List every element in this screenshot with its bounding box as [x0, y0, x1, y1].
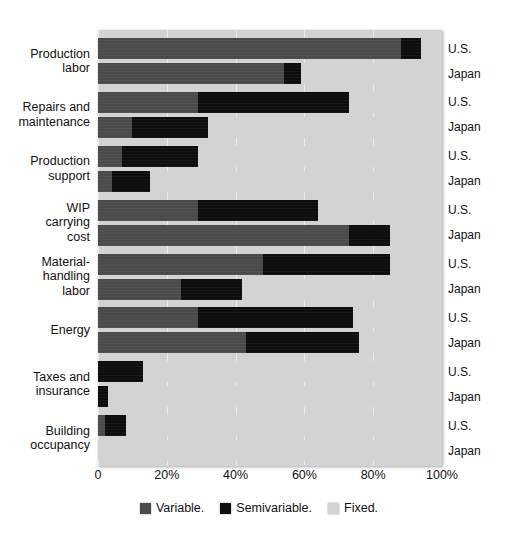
country-label-us: U.S.	[448, 149, 471, 163]
bar-segment-variable	[98, 63, 284, 84]
bar-row[interactable]	[98, 200, 442, 221]
x-tick-label: 80%	[361, 468, 386, 482]
bar-row[interactable]	[98, 361, 442, 382]
bar-segment-semivariable	[122, 146, 198, 167]
category-label-line: cost	[0, 230, 90, 245]
bar-segment-semivariable	[198, 307, 353, 328]
bar-row[interactable]	[98, 415, 442, 436]
bar-segment-semivariable	[198, 200, 318, 221]
bar-row[interactable]	[98, 279, 442, 300]
bar-row[interactable]	[98, 225, 442, 246]
bar-segment-variable	[98, 200, 198, 221]
country-label-japan: Japan	[448, 228, 481, 242]
bar-segment-variable	[98, 279, 181, 300]
legend-item[interactable]: Fixed.	[328, 501, 378, 515]
x-tick-label: 60%	[292, 468, 317, 482]
chart-legend: Variable.Semivariable.Fixed.	[0, 496, 518, 520]
bar-segment-variable	[98, 171, 112, 192]
bar-segment-semivariable	[181, 279, 243, 300]
legend-label: Fixed.	[344, 501, 378, 515]
x-tick-label: 100%	[426, 468, 458, 482]
legend-item[interactable]: Variable.	[140, 501, 204, 515]
country-label-japan: Japan	[448, 67, 481, 81]
bar-row[interactable]	[98, 254, 442, 275]
category-label: Material-handlinglabor	[0, 255, 90, 299]
bar-segment-variable	[98, 415, 105, 436]
bar-segment-semivariable	[284, 63, 301, 84]
category-label-line: handling	[0, 269, 90, 284]
category-label-line: Repairs and	[0, 100, 90, 115]
category-label-line: carrying	[0, 215, 90, 230]
country-labels: U.S.JapanU.S.JapanU.S.JapanU.S.JapanU.S.…	[448, 30, 518, 466]
bar-segment-semivariable	[246, 332, 360, 353]
bar-group	[98, 361, 442, 407]
bar-segment-fixed	[126, 415, 442, 436]
bar-row[interactable]	[98, 171, 442, 192]
bar-row[interactable]	[98, 38, 442, 59]
category-label-line: labor	[0, 284, 90, 299]
bar-segment-semivariable	[263, 254, 390, 275]
bar-segment-semivariable	[132, 117, 208, 138]
bar-segment-semivariable	[98, 386, 108, 407]
category-label: WIPcarryingcost	[0, 201, 90, 245]
category-label-line: insurance	[0, 384, 90, 399]
bar-segment-semivariable	[349, 225, 390, 246]
category-axis-labels: ProductionlaborRepairs andmaintenancePro…	[0, 30, 94, 466]
category-label-line: Production	[0, 154, 90, 169]
category-label-line: WIP	[0, 201, 90, 216]
bar-segment-variable	[98, 38, 401, 59]
bar-group	[98, 38, 442, 84]
country-label-us: U.S.	[448, 95, 471, 109]
bar-segment-fixed	[98, 440, 442, 461]
bar-group	[98, 254, 442, 300]
bar-segment-fixed	[359, 332, 442, 353]
bar-segment-semivariable	[198, 92, 349, 113]
country-label-japan: Japan	[448, 390, 481, 404]
bar-segment-variable	[98, 254, 263, 275]
bar-segment-fixed	[242, 279, 442, 300]
bar-segment-semivariable	[105, 415, 126, 436]
category-label-line: Energy	[0, 323, 90, 338]
country-label-japan: Japan	[448, 174, 481, 188]
bar-row[interactable]	[98, 92, 442, 113]
category-label-line: Building	[0, 424, 90, 439]
bar-group	[98, 200, 442, 246]
country-label-japan: Japan	[448, 336, 481, 350]
legend-swatch-icon	[328, 503, 339, 514]
bar-segment-fixed	[421, 38, 442, 59]
bar-segment-variable	[98, 307, 198, 328]
bar-segment-variable	[98, 117, 132, 138]
bar-segment-variable	[98, 146, 122, 167]
x-tick-label: 0	[95, 468, 102, 482]
legend-swatch-icon	[220, 503, 231, 514]
bar-row[interactable]	[98, 63, 442, 84]
bar-row[interactable]	[98, 386, 442, 407]
bar-segment-variable	[98, 92, 198, 113]
category-label: Repairs andmaintenance	[0, 100, 90, 129]
bar-segment-semivariable	[401, 38, 422, 59]
bar-row[interactable]	[98, 332, 442, 353]
bar-group	[98, 92, 442, 138]
bar-row[interactable]	[98, 146, 442, 167]
category-label-line: Production	[0, 47, 90, 62]
bar-segment-fixed	[390, 225, 442, 246]
bar-segment-fixed	[108, 386, 442, 407]
country-label-us: U.S.	[448, 419, 471, 433]
x-axis: 020%40%60%80%100%	[98, 468, 442, 490]
bar-segment-variable	[98, 332, 246, 353]
bar-row[interactable]	[98, 117, 442, 138]
bar-row[interactable]	[98, 440, 442, 461]
bar-group	[98, 415, 442, 461]
category-label: Taxes andinsurance	[0, 370, 90, 399]
legend-label: Variable.	[156, 501, 204, 515]
bar-row[interactable]	[98, 307, 442, 328]
category-label: Productionlabor	[0, 47, 90, 76]
category-label-line: occupancy	[0, 438, 90, 453]
country-label-us: U.S.	[448, 42, 471, 56]
bar-segment-fixed	[150, 171, 442, 192]
country-label-japan: Japan	[448, 282, 481, 296]
category-label-line: Material-	[0, 255, 90, 270]
bar-segment-semivariable	[98, 361, 143, 382]
x-tick-label: 20%	[154, 468, 179, 482]
legend-item[interactable]: Semivariable.	[220, 501, 312, 515]
